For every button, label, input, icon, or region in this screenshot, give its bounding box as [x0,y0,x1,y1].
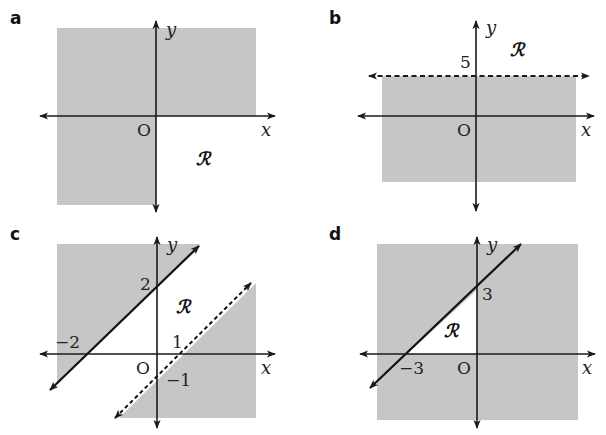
inequality-region-diagrams: a y x O ℛ b y x O 5 ℛ c y x O 2 −2 1 [0,0,606,435]
y-axis-label: y [485,17,497,38]
panel-label-b: b [329,8,341,28]
panel-c: c y x O 2 −2 1 −1 ℛ [10,224,275,428]
y-axis-label: y [166,234,178,255]
origin-label: O [137,120,151,140]
region-label: ℛ [196,148,212,169]
tick-label-5: 5 [460,52,471,72]
region-label: ℛ [176,296,192,317]
x-axis-label: x [582,357,592,378]
y-axis-label: y [165,19,177,40]
region-label: ℛ [510,39,526,60]
panel-a: a y x O ℛ [10,8,275,212]
panel-label-a: a [10,8,21,28]
tick-label-neg2: −2 [55,332,80,352]
origin-label: O [457,120,471,140]
panel-label-d: d [329,224,341,244]
tick-label-neg3: −3 [399,358,424,378]
origin-label: O [136,358,150,378]
x-axis-label: x [261,119,271,140]
tick-label-neg1: −1 [166,370,191,390]
panel-d: d y x O 3 −3 ℛ [329,224,595,428]
tick-label-3: 3 [482,284,493,304]
origin-label: O [457,358,471,378]
x-axis-label: x [261,357,271,378]
tick-label-1: 1 [172,332,183,352]
shaded-region [382,76,576,182]
tick-label-2: 2 [140,274,151,294]
region-label: ℛ [444,320,460,341]
x-axis-label: x [581,119,591,140]
y-axis-label: y [486,234,498,255]
panel-label-c: c [10,224,20,244]
panel-b: b y x O 5 ℛ [329,8,594,211]
